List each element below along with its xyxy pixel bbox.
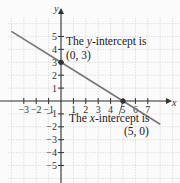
y-axis-label: y (53, 3, 59, 14)
y-intercept-point-label: (0, 3) (66, 49, 91, 62)
svg-text:5: 5 (52, 31, 57, 42)
svg-text:−3: −3 (18, 104, 29, 115)
x-axis-label: x (171, 97, 177, 108)
y-intercept-annotation: The y-intercept is (66, 35, 147, 48)
svg-text:−4: −4 (46, 147, 57, 158)
svg-text:−2: −2 (46, 121, 57, 132)
x-intercept-point-label: (5, 0) (124, 125, 149, 138)
svg-text:−3: −3 (46, 134, 57, 145)
svg-text:4: 4 (52, 44, 57, 55)
x-intercept-annotation: The x-intercept is (69, 112, 150, 125)
svg-text:−2: −2 (31, 104, 42, 115)
svg-text:−1: −1 (46, 108, 57, 119)
svg-text:2: 2 (52, 70, 57, 81)
svg-text:−5: −5 (46, 160, 57, 171)
intercept-points (58, 60, 125, 115)
coordinate-plane: −3−2−1123456754321−1−2−3−4−5 y x The y-i… (0, 0, 180, 183)
svg-text:1: 1 (52, 83, 57, 94)
